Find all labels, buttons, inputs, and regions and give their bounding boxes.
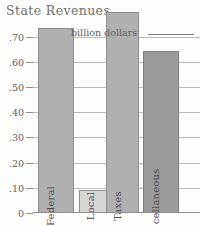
unit-annotation-rule (148, 34, 194, 35)
y-axis-tick-label: .70 (0, 31, 24, 42)
bar-label: Federal (45, 186, 56, 225)
state-revenues-bar-chart: State Revenues FederalLocalTaxesMiscella… (0, 0, 200, 225)
unit-annotation-label: billion dollars (71, 27, 137, 38)
y-axis-tick-label: .10 (0, 182, 24, 193)
y-axis-tick-mark (26, 137, 33, 138)
bar-label: Local (85, 192, 96, 220)
y-axis-tick-label: .30 (0, 132, 24, 143)
bar-label: Miscellaneous (150, 169, 161, 226)
bar-federal: Federal (38, 28, 74, 213)
y-axis-tick-labels: .70.60.50.40.30.20.100 (0, 0, 33, 213)
y-axis-tick-mark (26, 188, 33, 189)
y-axis-tick-label: .20 (0, 157, 24, 168)
y-axis-tick-mark (26, 62, 33, 63)
y-axis-tick-mark (26, 37, 33, 38)
y-axis-tick-label: .60 (0, 56, 24, 67)
y-axis-tick-label: .40 (0, 107, 24, 118)
bar-label: Taxes (112, 191, 123, 221)
y-axis-tick-mark (26, 87, 33, 88)
y-axis-tick-mark (26, 213, 33, 214)
bar-taxes: Taxes (106, 12, 139, 213)
x-axis-baseline (33, 212, 200, 213)
y-axis-tick-label: .50 (0, 82, 24, 93)
y-axis-tick-label: 0 (0, 208, 24, 219)
bar-miscellaneous: Miscellaneous (143, 51, 179, 213)
y-axis-tick-mark (26, 112, 33, 113)
y-axis-tick-mark (26, 163, 33, 164)
